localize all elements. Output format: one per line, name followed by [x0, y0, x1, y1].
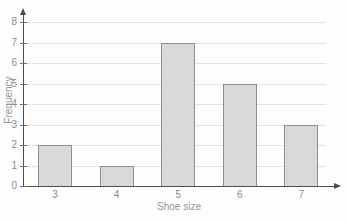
y-tick-mark-0 — [20, 186, 27, 187]
x-axis-line — [23, 186, 335, 188]
y-tick-mark-8 — [20, 22, 27, 23]
gridline-y-8 — [23, 22, 326, 23]
x-axis-arrow-icon — [334, 183, 341, 189]
y-tick-label-0: 0 — [1, 180, 17, 192]
y-tick-label-7: 7 — [1, 37, 17, 49]
y-tick-mark-6 — [20, 63, 27, 64]
x-tick-label-4: 4 — [105, 189, 129, 201]
y-axis-title: Frequency — [3, 76, 14, 123]
y-tick-mark-2 — [20, 145, 27, 146]
y-tick-mark-1 — [20, 166, 27, 167]
y-tick-label-1: 1 — [1, 160, 17, 172]
x-tick-label-5: 5 — [166, 189, 190, 201]
x-tick-label-6: 6 — [228, 189, 252, 201]
bar-shoe-size-4 — [100, 166, 134, 188]
bar-shoe-size-5 — [161, 43, 195, 188]
y-tick-label-8: 8 — [1, 16, 17, 28]
bar-shoe-size-3 — [38, 145, 72, 187]
y-axis-line — [23, 13, 25, 186]
y-tick-mark-4 — [20, 104, 27, 105]
bar-shoe-size-7 — [284, 125, 318, 188]
y-tick-label-2: 2 — [1, 139, 17, 151]
y-tick-mark-7 — [20, 43, 27, 44]
y-tick-mark-3 — [20, 125, 27, 126]
x-axis-title: Shoe size — [157, 201, 201, 212]
y-tick-label-6: 6 — [1, 57, 17, 69]
x-tick-label-7: 7 — [289, 189, 313, 201]
y-axis-arrow-icon — [20, 8, 26, 15]
shoe-size-frequency-bar-chart: 012345678 34567 Frequency Shoe size — [0, 0, 347, 221]
y-tick-mark-5 — [20, 84, 27, 85]
bar-shoe-size-6 — [223, 84, 257, 188]
x-tick-label-3: 3 — [43, 189, 67, 201]
